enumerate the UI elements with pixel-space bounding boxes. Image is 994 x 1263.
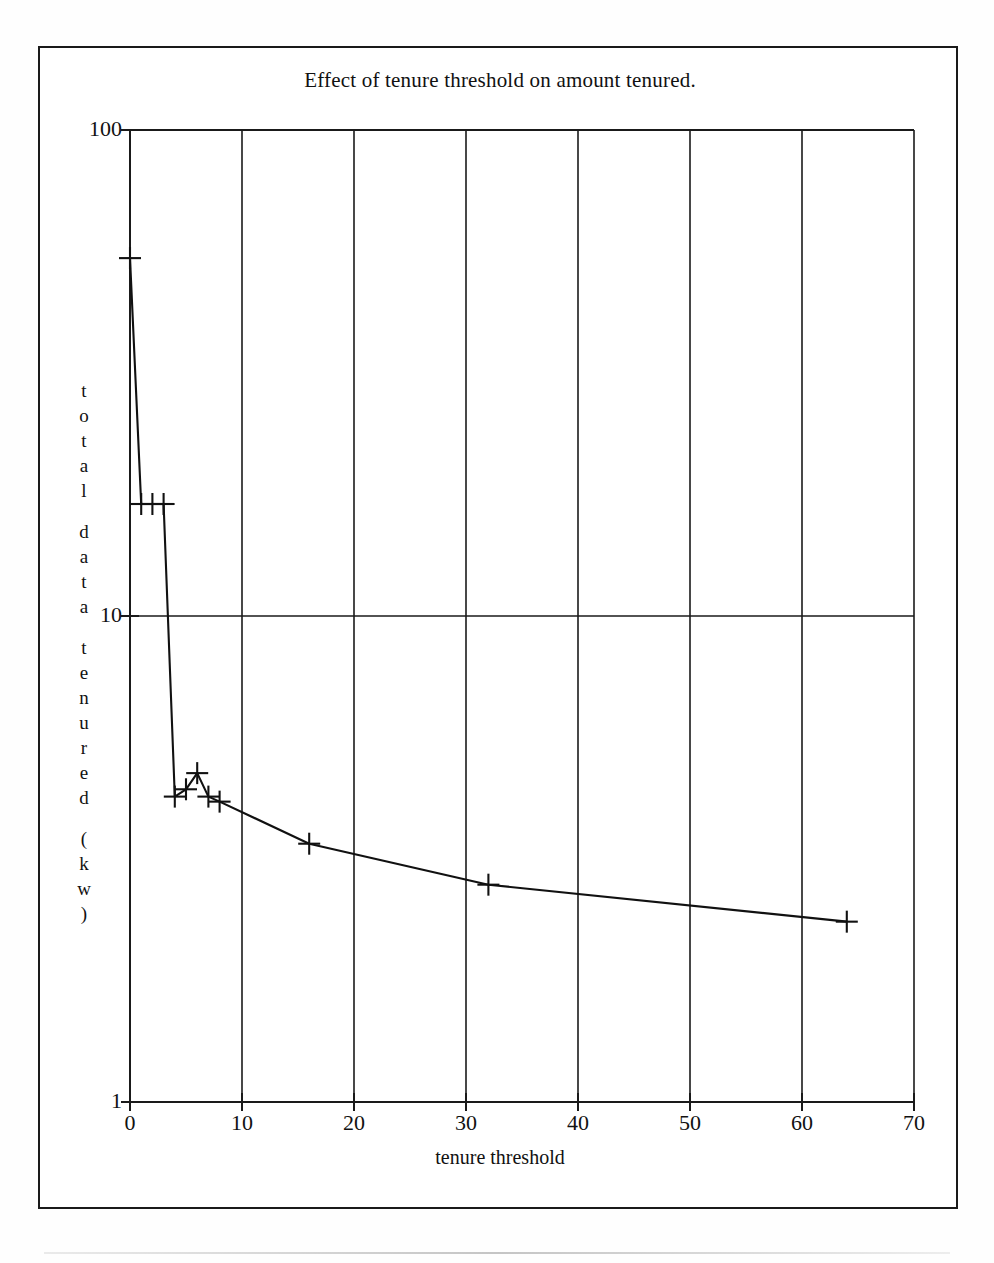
y-axis-tick-label: 100 <box>89 118 122 140</box>
data-point-marker <box>836 911 858 933</box>
x-axis-title: tenure threshold <box>40 1146 960 1169</box>
chart-title: Effect of tenure threshold on amount ten… <box>40 68 960 93</box>
data-point-marker <box>153 493 175 515</box>
x-axis-tick-label: 60 <box>791 1110 813 1136</box>
x-axis-tick-label: 50 <box>679 1110 701 1136</box>
x-axis-tick-labels: 010203040506070 <box>130 1110 914 1144</box>
x-axis-tick-label: 20 <box>343 1110 365 1136</box>
data-point-marker <box>477 874 499 896</box>
x-axis-tick-label: 0 <box>125 1110 136 1136</box>
grid-lines <box>130 130 914 1102</box>
data-point-marker <box>298 833 320 855</box>
y-axis-tick-label: 1 <box>111 1090 122 1112</box>
scanned-page: Effect of tenure threshold on amount ten… <box>0 0 994 1263</box>
data-series-line <box>130 258 847 922</box>
plot-canvas <box>130 130 914 1102</box>
plot-area <box>130 130 914 1102</box>
y-axis-tick-label: 10 <box>100 604 122 626</box>
axis-tick-marks <box>121 130 914 1111</box>
x-axis-tick-label: 30 <box>455 1110 477 1136</box>
data-series-markers <box>119 247 858 933</box>
figure-frame: Effect of tenure threshold on amount ten… <box>38 46 958 1209</box>
scan-artifact-line <box>44 1252 950 1254</box>
data-point-marker <box>197 786 219 808</box>
x-axis-tick-label: 10 <box>231 1110 253 1136</box>
data-point-marker <box>209 791 231 813</box>
x-axis-tick-label: 70 <box>903 1110 925 1136</box>
data-point-marker <box>119 247 141 269</box>
x-axis-tick-label: 40 <box>567 1110 589 1136</box>
data-point-marker <box>186 762 208 784</box>
y-axis-tick-labels: 110100 <box>60 130 122 1102</box>
